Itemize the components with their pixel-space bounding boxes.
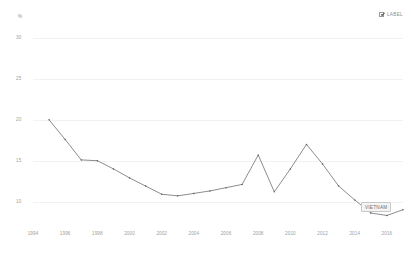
data-point [193, 193, 195, 195]
data-point [177, 195, 179, 197]
data-point [241, 184, 243, 186]
series-line-vietnam [49, 120, 403, 216]
data-point [354, 199, 356, 201]
data-point [386, 215, 388, 217]
data-point [129, 177, 131, 179]
data-point [257, 154, 259, 156]
data-point [290, 168, 292, 170]
data-point [370, 212, 372, 214]
data-point [48, 119, 50, 121]
chart-container: % LABEL 3025201510 199419961998200020022… [0, 0, 411, 256]
series-callout-vietnam[interactable]: VIETNAM [361, 202, 392, 212]
data-point [81, 159, 83, 161]
data-point [322, 163, 324, 165]
data-point [97, 160, 99, 162]
data-point [113, 168, 115, 170]
data-point [145, 185, 147, 187]
plot-area [0, 0, 411, 256]
data-point [338, 185, 340, 187]
series-points [48, 119, 403, 216]
data-point [402, 209, 404, 211]
data-point [209, 190, 211, 192]
data-point [274, 191, 276, 193]
data-point [225, 187, 227, 189]
data-point [64, 139, 66, 141]
data-point [161, 193, 163, 195]
data-point [306, 144, 308, 146]
